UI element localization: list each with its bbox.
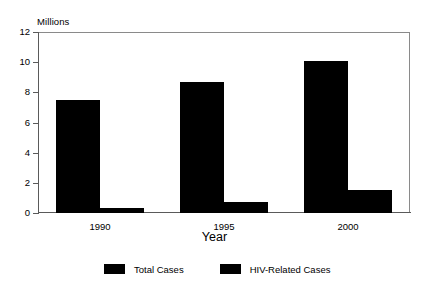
bar-hiv-related-cases-2000 <box>348 190 392 213</box>
y-axis-tick-label: 12 <box>0 27 30 37</box>
legend-swatch-icon <box>104 264 125 274</box>
bars-layer <box>38 32 410 213</box>
legend-item-total-cases: Total Cases <box>104 264 184 275</box>
y-axis-tick-label: 10 <box>0 57 30 67</box>
bar-hiv-related-cases-1995 <box>224 202 268 213</box>
y-axis-tick-label: 2 <box>0 178 30 188</box>
bar-total-cases-1995 <box>180 82 224 213</box>
y-axis-tick-label: 8 <box>0 87 30 97</box>
bar-total-cases-1990 <box>56 100 100 213</box>
x-axis-title: Year <box>0 230 429 245</box>
legend-label: Total Cases <box>134 264 184 275</box>
y-axis-unit-label: Millions <box>37 16 69 27</box>
y-axis-tick-label: 6 <box>0 118 30 128</box>
bar-chart: Millions 024681012 199019952000 Year Tot… <box>0 0 429 297</box>
bar-total-cases-2000 <box>304 61 348 213</box>
chart-legend: Total CasesHIV-Related Cases <box>104 262 330 276</box>
legend-label: HIV-Related Cases <box>250 264 331 275</box>
legend-item-hiv-related-cases: HIV-Related Cases <box>220 264 331 275</box>
y-axis-tick-label: 4 <box>0 148 30 158</box>
bar-hiv-related-cases-1990 <box>100 208 144 213</box>
y-axis-tick-label: 0 <box>0 208 30 218</box>
legend-swatch-icon <box>220 264 241 274</box>
